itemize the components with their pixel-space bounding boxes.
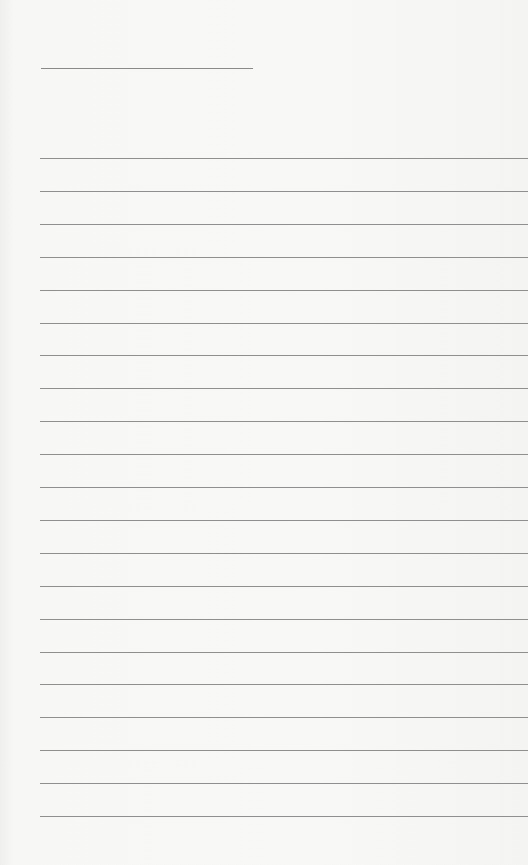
ruled-line <box>40 487 528 488</box>
ruled-line <box>40 421 528 422</box>
ruled-line <box>40 684 528 685</box>
ruled-line <box>40 553 528 554</box>
header-line <box>41 68 253 69</box>
ruled-line <box>40 520 528 521</box>
ruled-line <box>40 191 528 192</box>
ruled-line <box>40 454 528 455</box>
ruled-line <box>40 224 528 225</box>
ruled-line <box>40 355 528 356</box>
ruled-line <box>40 257 528 258</box>
ruled-line <box>40 388 528 389</box>
ruled-line <box>40 290 528 291</box>
notepad-sheet <box>0 0 528 865</box>
ruled-line <box>40 586 528 587</box>
ruled-line <box>40 619 528 620</box>
ruled-line <box>40 750 528 751</box>
ruled-line <box>40 323 528 324</box>
ruled-line <box>40 783 528 784</box>
ruled-line <box>40 158 528 159</box>
ruled-line <box>40 717 528 718</box>
ruled-line <box>40 652 528 653</box>
ruled-line <box>40 816 528 817</box>
